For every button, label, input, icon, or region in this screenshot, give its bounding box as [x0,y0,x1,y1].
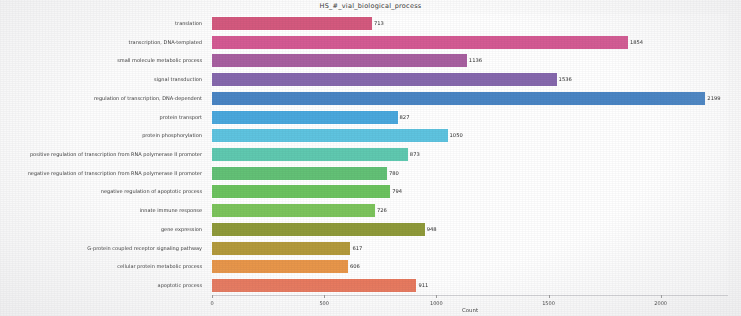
y-axis-tick-label: cellular protein metabolic process [117,264,202,269]
bar-value-label: 948 [427,227,437,232]
bar [212,242,350,255]
y-axis-tick-label: protein phosphorylation [142,133,202,138]
bar-series: 7131854113615362199827105087378079472694… [212,14,728,295]
bar [212,129,448,142]
y-axis-tick-label: translation [175,21,202,26]
bar-value-label: 1854 [630,40,643,45]
y-axis-tick-label: regulation of transcription, DNA-depende… [94,96,202,101]
x-axis-tick-mark [661,295,662,298]
bar-value-label: 617 [352,246,362,251]
bar-value-label: 780 [389,171,399,176]
y-axis-tick-label: G-protein coupled receptor signaling pat… [87,246,202,251]
x-axis-tick-mark [436,295,437,298]
x-axis-spine [212,295,728,296]
x-axis-tick-label: 2000 [654,300,667,306]
bar-value-label: 2199 [707,96,720,101]
y-axis-tick-labels: translationtranscription, DNA-templateds… [0,14,208,295]
bar [212,223,425,236]
y-axis-tick-label: protein transport [160,115,202,120]
bar [212,204,375,217]
y-axis-tick-label: small molecule metabolic process [117,58,202,63]
bar [212,73,557,86]
bar-value-label: 606 [350,264,360,269]
y-axis-tick-label: signal transduction [154,77,202,82]
bar-value-label: 1536 [559,77,572,82]
bar-value-label: 713 [374,21,384,26]
bar-value-label: 1136 [469,58,482,63]
bar [212,148,408,161]
x-axis-tick-label: 500 [319,300,329,306]
bar [212,260,348,273]
bar [212,167,387,180]
chart-title: HS_#_vial_biological_process [0,2,741,10]
bar-value-label: 794 [392,189,402,194]
bar-value-label: 911 [418,283,428,288]
bar [212,17,372,30]
bar [212,279,416,292]
plot-area: 7131854113615362199827105087378079472694… [212,14,728,295]
bar-value-label: 1050 [450,133,463,138]
bar [212,185,390,198]
x-axis-tick-mark [549,295,550,298]
bar [212,111,398,124]
bar-value-label: 827 [400,115,410,120]
chart-page: HS_#_vial_biological_process Function tr… [0,0,741,316]
x-axis-tick-label: 1500 [542,300,555,306]
y-axis-tick-label: apoptotic process [158,283,202,288]
y-axis-tick-label: negative regulation of transcription fro… [28,171,202,176]
x-axis-tick-label: 0 [210,300,213,306]
y-axis-tick-label: gene expression [161,227,202,232]
x-axis-tick-label: 1000 [430,300,443,306]
y-axis-tick-label: negative regulation of apoptotic process [101,189,202,194]
bar-value-label: 726 [377,208,387,213]
y-axis-tick-label: transcription, DNA-templated [129,40,202,45]
y-axis-tick-label: positive regulation of transcription fro… [30,152,202,157]
y-axis-tick-label: innate immune response [140,208,202,213]
x-axis-title: Count [212,307,728,313]
bar [212,92,705,105]
bar-value-label: 873 [410,152,420,157]
x-axis-tick-mark [324,295,325,298]
bar [212,36,628,49]
bar [212,54,467,67]
x-axis-tick-mark [212,295,213,298]
